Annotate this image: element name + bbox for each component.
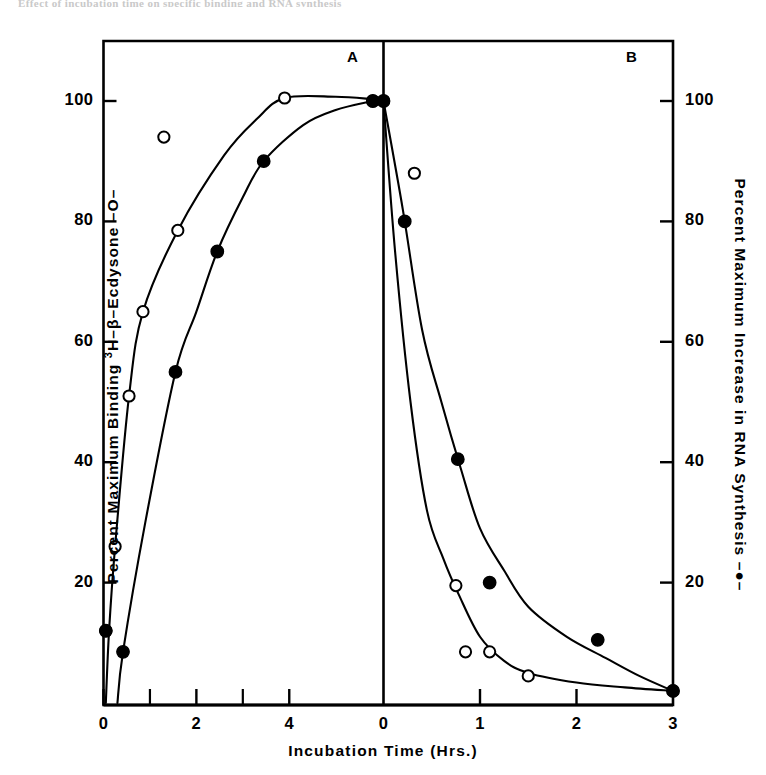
datapoint-a-filled-circle-3: [211, 245, 223, 257]
y-tick-label-left-40: 40: [38, 451, 94, 470]
datapoint-b-filled-circle-5: [667, 685, 679, 697]
y-tick-label-right-80: 80: [685, 210, 741, 229]
plot-frame: [104, 41, 674, 705]
datapoint-b-open-circle-2: [450, 580, 461, 591]
y-tick-label-right-60: 60: [685, 331, 741, 350]
datapoint-a-open-circle-2: [123, 390, 134, 401]
y-tick-label-right-20: 20: [685, 572, 741, 591]
curve-a-filled-circle-fit: [117, 101, 372, 703]
datapoint-b-filled-circle-0: [377, 95, 389, 107]
x-tick-label-b-2: 2: [557, 714, 597, 733]
y-tick-label-right-40: 40: [685, 451, 741, 470]
curve-a-open-circle-fit: [106, 96, 373, 703]
x-tick-label-b-3: 3: [653, 714, 693, 733]
x-tick-label-b-1: 1: [460, 714, 500, 733]
y-axis-left-title-pre: Percent Maximum Binding: [104, 358, 121, 583]
x-tick-label-a-2: 2: [176, 714, 216, 733]
isotope-superscript: 3: [102, 351, 114, 358]
datapoint-b-open-circle-1: [409, 168, 420, 179]
datapoint-a-open-circle-4: [158, 132, 169, 143]
y-axis-left-title-post: H–β–Ecdysone –O–: [104, 189, 121, 351]
figure-container: Effect of incubation time on specific bi…: [0, 0, 766, 775]
y-tick-label-left-60: 60: [38, 331, 94, 350]
datapoint-a-open-circle-3: [137, 306, 148, 317]
curve-b-open-circle-decay: [384, 101, 674, 691]
datapoint-b-filled-circle-4: [592, 634, 604, 646]
datapoint-a-filled-circle-4: [258, 155, 270, 167]
datapoint-b-open-circle-5: [523, 670, 534, 681]
x-axis-title: Incubation Time (Hrs.): [0, 742, 766, 760]
datapoint-a-filled-circle-2: [169, 366, 181, 378]
panel-label-a: A: [347, 48, 358, 65]
y-axis-left-title: Percent Maximum Binding 3H–β–Ecdysone –O…: [102, 106, 122, 666]
x-tick-label-a-4: 4: [269, 714, 309, 733]
y-tick-label-left-80: 80: [38, 210, 94, 229]
datapoint-a-open-circle-6: [279, 92, 290, 103]
x-tick-label-a-0: 0: [84, 714, 124, 733]
datapoint-b-filled-circle-1: [399, 215, 411, 227]
y-tick-label-left-20: 20: [38, 572, 94, 591]
x-tick-label-b-0: 0: [364, 714, 404, 733]
y-tick-label-left-100: 100: [38, 90, 94, 109]
datapoint-b-open-circle-4: [484, 646, 495, 657]
y-tick-label-right-100: 100: [685, 90, 741, 109]
curve-b-filled-circle-decay: [384, 101, 674, 691]
datapoint-a-open-circle-5: [172, 225, 183, 236]
datapoint-b-open-circle-3: [460, 646, 471, 657]
panel-label-b: B: [626, 48, 637, 65]
datapoint-b-filled-circle-2: [452, 453, 464, 465]
datapoint-b-filled-circle-3: [483, 576, 495, 588]
